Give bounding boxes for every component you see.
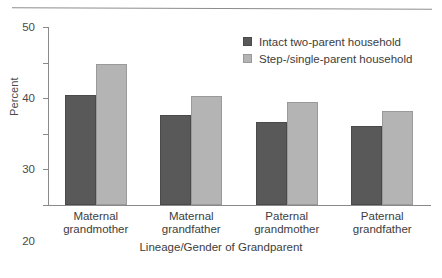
- y-axis-tick: 10: [43, 169, 48, 170]
- x-axis-title: Lineage/Gender of Grandparent: [0, 241, 442, 253]
- top-divider-rule: [12, 7, 432, 10]
- y-axis-title: Percent: [8, 77, 20, 116]
- y-axis-tick: 40: [43, 63, 48, 64]
- y-axis-tick-label: 40: [22, 92, 35, 104]
- bar: [191, 96, 222, 205]
- x-axis-category-label: Paternalgrandfather: [335, 210, 431, 236]
- x-axis-category-label: Maternalgrandfather: [144, 210, 240, 236]
- bar: [382, 111, 413, 205]
- bar: [96, 64, 127, 205]
- x-axis-category-label-line: Paternal: [239, 210, 335, 223]
- x-axis-category-label: Maternalgrandmother: [48, 210, 144, 236]
- y-axis-tick: 0: [43, 205, 48, 206]
- legend-swatch-icon: [243, 54, 252, 63]
- bar: [256, 122, 287, 205]
- y-axis-tick: 50: [43, 27, 48, 28]
- legend: Intact two-parent householdStep-/single-…: [243, 34, 412, 68]
- x-axis-category-label-line: Maternal: [48, 210, 144, 223]
- bar: [65, 95, 96, 205]
- x-axis-line: [48, 205, 431, 206]
- y-axis-tick: 20: [43, 134, 48, 135]
- x-axis-category-label-line: grandmother: [239, 223, 335, 236]
- x-axis-category-label-line: Paternal: [335, 210, 431, 223]
- bar: [351, 126, 382, 205]
- y-axis-tick-label: 30: [22, 163, 35, 175]
- x-axis-category-label-line: grandmother: [48, 223, 144, 236]
- legend-swatch-icon: [243, 37, 252, 46]
- legend-item: Step-/single-parent household: [243, 51, 412, 66]
- bar: [287, 102, 318, 205]
- legend-item: Intact two-parent household: [243, 34, 412, 49]
- legend-label: Intact two-parent household: [259, 36, 401, 48]
- y-axis-tick: 30: [43, 98, 48, 99]
- x-axis-category-label-line: grandfather: [144, 223, 240, 236]
- bar: [160, 115, 191, 205]
- legend-label: Step-/single-parent household: [259, 53, 412, 65]
- x-axis-category-label: Paternalgrandmother: [239, 210, 335, 236]
- x-axis-category-label-line: Maternal: [144, 210, 240, 223]
- bar-chart-figure: Percent 01020304050 Intact two-parent ho…: [0, 0, 442, 278]
- x-axis-category-label-line: grandfather: [335, 223, 431, 236]
- y-axis-tick-label: 50: [22, 21, 35, 33]
